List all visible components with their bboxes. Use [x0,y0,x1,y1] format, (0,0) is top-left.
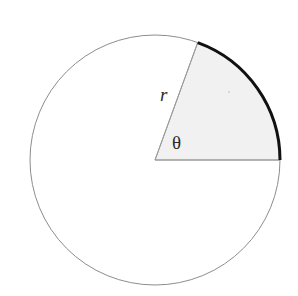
circle-sector-diagram: r θ [0,0,298,296]
radius-label: r [160,84,168,105]
speck-artifact [228,91,230,93]
figure-canvas: r θ [0,0,298,296]
angle-label-theta: θ [172,132,181,153]
